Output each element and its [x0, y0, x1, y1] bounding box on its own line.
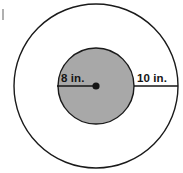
concentric-circles-diagram: 8 in. 10 in. — [0, 0, 183, 173]
outer-ring-label: 10 in. — [137, 72, 167, 84]
diagram-canvas: 8 in. 10 in. — [0, 0, 183, 173]
center-point-dot — [92, 82, 99, 89]
inner-radius-label: 8 in. — [61, 72, 85, 84]
stray-scan-mark — [2, 9, 4, 20]
